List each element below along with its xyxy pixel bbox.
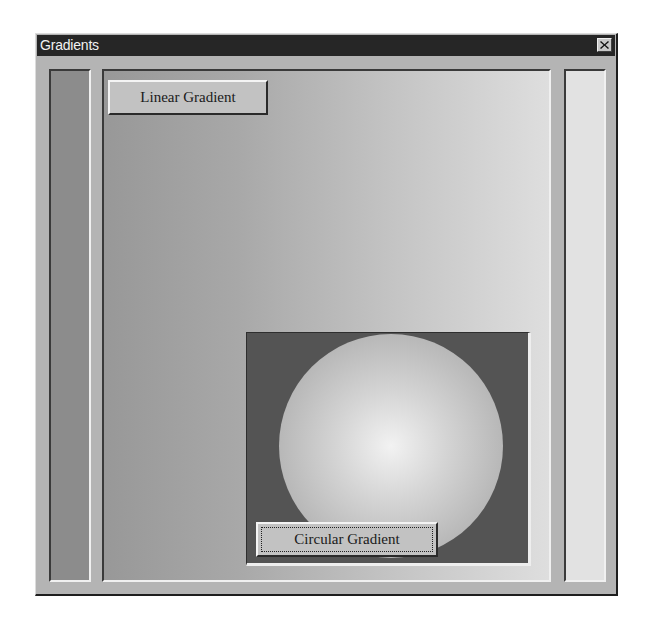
linear-gradient-panel: Linear Gradient Circular Gradient bbox=[102, 69, 551, 582]
linear-gradient-button[interactable]: Linear Gradient bbox=[108, 80, 268, 115]
focus-rectangle: Circular Gradient bbox=[261, 527, 433, 552]
circular-gradient-label: Circular Gradient bbox=[294, 531, 399, 548]
circular-gradient-panel: Circular Gradient bbox=[246, 332, 531, 566]
window-title: Gradients bbox=[40, 37, 99, 54]
right-panel bbox=[564, 69, 606, 582]
gradients-window: Gradients Linear Gradient Circular Gradi… bbox=[35, 33, 618, 596]
left-panel bbox=[49, 69, 91, 582]
title-bar[interactable]: Gradients bbox=[37, 35, 615, 56]
linear-gradient-label: Linear Gradient bbox=[140, 89, 235, 106]
circular-gradient-button[interactable]: Circular Gradient bbox=[256, 522, 438, 557]
close-button[interactable] bbox=[597, 38, 612, 52]
close-icon bbox=[600, 41, 609, 49]
